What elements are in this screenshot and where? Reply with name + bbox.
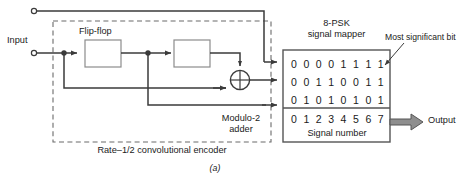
flip-flop-2 [174,40,210,67]
bit-most-significant-bit-col6: 1 [365,58,371,70]
signal-number-3: 3 [328,113,334,125]
bit-middle-bit-col1: 0 [303,76,309,88]
input-terminal-top [31,8,36,13]
bit-middle-bit-col5: 0 [353,76,359,88]
signal-number-0: 0 [291,113,297,125]
signal-number-4: 4 [341,113,347,125]
flip-flop-label: Flip-flop [79,26,112,37]
mapper-label-line2: signal mapper [287,29,386,40]
signal-number-1: 1 [303,113,309,125]
signal-number-6: 6 [365,113,371,125]
bit-middle-bit-col6: 1 [365,76,371,88]
mapper-label-line1: 8-PSK [287,18,386,29]
bit-least-significant-bit-col7: 1 [378,94,384,106]
output-block-arrow [390,114,423,130]
signal-number-2: 2 [316,113,322,125]
bit-most-significant-bit-col1: 0 [303,58,309,70]
modulo-2-adder-label-line2: adder [205,124,277,135]
bit-middle-bit-col2: 1 [316,76,322,88]
bit-middle-bit-col3: 1 [328,76,334,88]
bit-most-significant-bit-col7: 1 [378,58,384,70]
bit-most-significant-bit-col2: 0 [316,58,322,70]
bit-most-significant-bit-col3: 0 [328,58,334,70]
input-label: Input [7,35,27,46]
bit-least-significant-bit-col1: 1 [303,94,309,106]
wire-ff2-to-adder [210,53,240,66]
bit-least-significant-bit-col5: 1 [353,94,359,106]
figure-convolutional-encoder-8psk: Input Flip-flop Modulo-2 adder Rate–1/2 … [0,0,469,185]
input-terminal-main [31,50,36,55]
modulo-2-adder-label-line1: Modulo-2 [205,113,277,124]
signal-number-label: Signal number [290,128,384,139]
encoder-label: Rate–1/2 convolutional encoder [64,145,260,156]
bit-most-significant-bit-col5: 1 [353,58,359,70]
bit-middle-bit-col7: 1 [378,76,384,88]
bit-least-significant-bit-col2: 0 [316,94,322,106]
output-label: Output [428,115,456,126]
signal-number-5: 5 [353,113,359,125]
bit-least-significant-bit-col6: 0 [365,94,371,106]
diagram-canvas [0,0,469,185]
figure-caption: (a) [200,163,230,173]
bit-most-significant-bit-col0: 0 [291,58,297,70]
bit-least-significant-bit-col0: 0 [291,94,297,106]
most-significant-bit-label: Most significant bit [385,33,456,43]
flip-flop-1 [85,40,121,67]
bit-least-significant-bit-col3: 1 [328,94,334,106]
bit-most-significant-bit-col4: 1 [341,58,347,70]
bit-middle-bit-col4: 0 [341,76,347,88]
bit-middle-bit-col0: 0 [291,76,297,88]
bit-least-significant-bit-col4: 0 [341,94,347,106]
signal-number-7: 7 [378,113,384,125]
